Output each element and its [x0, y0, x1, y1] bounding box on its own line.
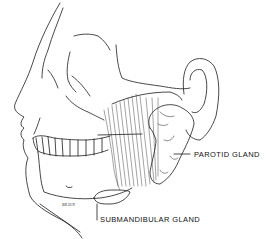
- label-parotid-gland: PAROTID GLAND: [194, 150, 260, 159]
- ear: [183, 59, 219, 140]
- skull-outline: [74, 34, 110, 50]
- skull-face-illustration: [0, 0, 270, 239]
- teeth: [33, 136, 110, 156]
- label-submandibular-gland: SUBMANDIBULAR GLAND: [100, 215, 200, 224]
- submandibular-gland: [94, 190, 130, 204]
- artist-signature: BRAUN: [62, 202, 75, 207]
- mandible-outline: [38, 152, 132, 199]
